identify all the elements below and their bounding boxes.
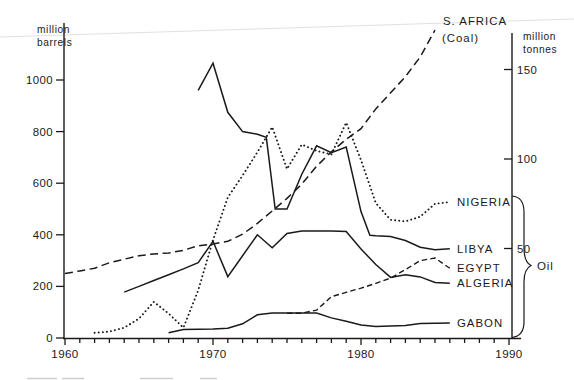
line-chart-figure: 0200400600800100050100150196019701980199… [0,0,574,380]
right-axis-unit-line1: million [523,31,556,42]
left-tick-label-200: 200 [33,280,53,292]
series-label-s_africa_coal-1: S. AFRICA [443,15,507,27]
x-tick-label-1970: 1970 [199,347,226,360]
x-tick-label-1980: 1980 [347,347,374,360]
right-tick-label-150: 150 [517,64,537,76]
left-tick-label-600: 600 [33,177,53,189]
right-tick-label-100: 100 [517,153,537,165]
left-tick-label-0: 0 [46,332,53,344]
right-axis-unit-line2: tonnes [523,44,557,55]
series-line-egypt [287,258,450,313]
series-label-libya: LIBYA [457,243,493,255]
left-axis-unit-line2: barrels [37,37,72,48]
left-tick-label-400: 400 [33,229,53,241]
series-line-gabon [169,313,450,333]
left-tick-label-1000: 1000 [26,74,53,86]
series-line-nigeria [95,123,450,333]
left-tick-label-800: 800 [33,126,53,138]
x-tick-label-1990: 1990 [495,347,522,360]
series-label-s_africa_coal-2: (Coal) [442,32,479,44]
series-label-nigeria: NIGERIA [457,196,511,208]
series-label-egypt: EGYPT [457,262,501,274]
oil-group-brace [512,196,531,338]
series-line-libya [198,63,450,250]
left-axis-unit-line1: million [37,24,70,35]
chart-canvas: 0200400600800100050100150196019701980199… [0,0,574,380]
series-label-algeria: ALGERIA [457,277,513,289]
series-line-s_africa_coal [65,30,435,274]
oil-group-label: Oil [537,259,554,272]
series-label-gabon: GABON [457,317,503,329]
x-tick-label-1960: 1960 [51,347,78,360]
